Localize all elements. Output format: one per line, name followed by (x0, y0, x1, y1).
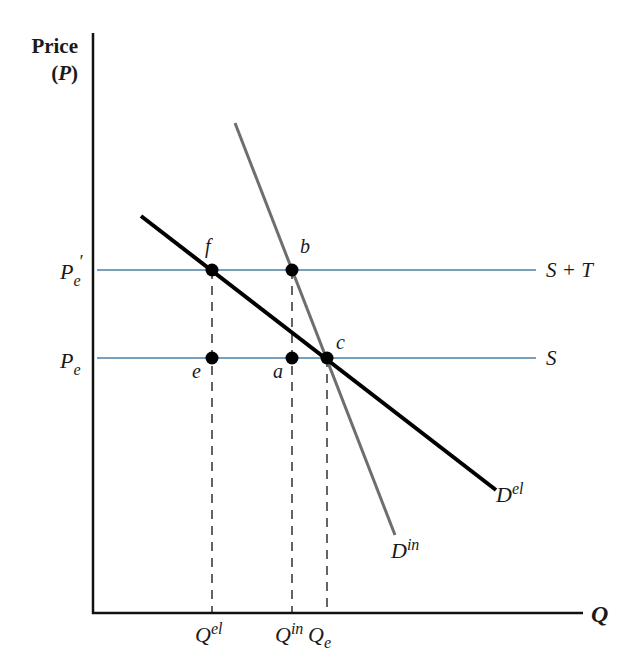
quantity-label-q-e: Qe (308, 622, 331, 651)
elastic-demand-label: Del (495, 480, 524, 507)
price-label-pe: Pe (59, 348, 81, 378)
supply-label: S (546, 346, 557, 370)
point-b (286, 264, 299, 277)
quantity-label-q-el: Qel (195, 620, 223, 647)
point-label-a: a (273, 360, 283, 382)
y-axis-label-p: (P) (51, 61, 78, 85)
supply-plus-tax-label: S + T (546, 258, 594, 282)
point-label-f: f (205, 235, 213, 258)
point-e (206, 352, 219, 365)
point-label-c: c (336, 331, 345, 353)
point-c (321, 352, 334, 365)
elastic-demand-line (141, 216, 496, 490)
x-axis-label-q: Q (591, 601, 608, 627)
point-f (206, 264, 219, 277)
inelastic-demand-line (235, 123, 395, 535)
point-a (286, 352, 299, 365)
inelastic-demand-label: Din (390, 536, 419, 563)
tax-incidence-diagram: Price (P) Q Pe′ Pe S + T S Del Din f b e… (0, 0, 636, 667)
quantity-label-q-in: Qin (275, 620, 303, 647)
point-label-e: e (192, 360, 201, 382)
y-axis-label-price: Price (31, 34, 78, 58)
price-label-pe-prime: Pe′ (59, 252, 84, 289)
point-label-b: b (300, 235, 310, 257)
